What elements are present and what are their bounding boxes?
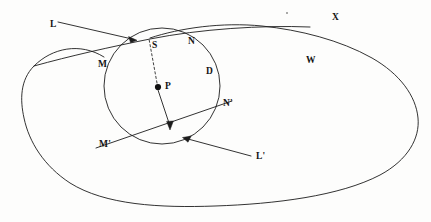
label-line-L: L [50, 20, 57, 30]
blob-outline-W [22, 25, 419, 207]
figure-canvas [0, 0, 431, 222]
scan-speck [286, 12, 288, 14]
label-point-M-prime: M' [99, 140, 111, 150]
label-region-D: D [206, 67, 213, 77]
chord-line-L [34, 27, 310, 67]
label-point-N-prime: N' [223, 99, 233, 109]
leader-arrow-L [58, 22, 137, 43]
label-region-X: X [332, 13, 339, 23]
label-point-P: P [165, 82, 171, 92]
label-region-W: W [306, 56, 316, 66]
label-line-L-prime: L' [256, 152, 265, 162]
geometry-figure: L L' M M' N N' S P D W X [0, 0, 431, 222]
label-point-M: M [98, 60, 107, 70]
label-point-S: S [152, 41, 157, 51]
point-P-dot [155, 84, 161, 90]
leader-arrow-L-prime [183, 136, 252, 156]
disc-D-circle [104, 28, 220, 144]
label-point-N: N [188, 37, 195, 47]
